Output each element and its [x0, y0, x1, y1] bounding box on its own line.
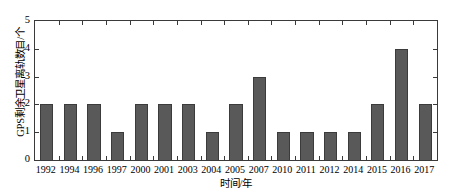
- bar: [371, 104, 384, 160]
- y-tick-label: 3: [16, 71, 30, 81]
- x-tick-mark: [271, 156, 272, 160]
- bar: [206, 132, 219, 160]
- plot-inner: [35, 21, 437, 160]
- x-tick-mark: [248, 21, 249, 25]
- x-tick-label: 2014: [343, 163, 363, 176]
- y-tick-label: 5: [16, 15, 30, 25]
- x-tick-mark: [295, 156, 296, 160]
- x-tick-mark: [106, 156, 107, 160]
- x-tick-mark: [342, 21, 343, 25]
- x-tick-label: 1994: [59, 163, 79, 176]
- x-tick-label: 2015: [367, 163, 387, 176]
- x-tick-mark: [224, 156, 225, 160]
- y-tick-label: 0: [16, 154, 30, 164]
- x-tick-mark: [130, 21, 131, 25]
- x-tick-label: 2012: [320, 163, 340, 176]
- bar: [419, 104, 432, 160]
- x-tick-mark: [201, 156, 202, 160]
- bar: [135, 104, 148, 160]
- x-tick-label: 2004: [201, 163, 221, 176]
- x-tick-label: 2003: [178, 163, 198, 176]
- bar: [229, 104, 242, 160]
- x-tick-mark: [366, 21, 367, 25]
- y-tick-label: 1: [16, 126, 30, 136]
- x-tick-mark: [82, 21, 83, 25]
- y-tick-label: 4: [16, 43, 30, 53]
- y-tick-mark: [433, 132, 437, 133]
- x-tick-mark: [106, 21, 107, 25]
- x-tick-mark: [413, 156, 414, 160]
- x-tick-mark: [248, 156, 249, 160]
- y-axis-tick-labels: 012345: [12, 0, 30, 196]
- bar: [324, 132, 337, 160]
- x-axis-title: 时间/年: [34, 177, 438, 191]
- x-tick-label: 2000: [130, 163, 150, 176]
- x-tick-mark: [177, 156, 178, 160]
- x-tick-label: 1996: [83, 163, 103, 176]
- x-tick-mark: [271, 21, 272, 25]
- x-tick-label: 2017: [414, 163, 434, 176]
- x-tick-mark: [224, 21, 225, 25]
- bar: [158, 104, 171, 160]
- x-tick-mark: [319, 21, 320, 25]
- y-tick-label: 2: [16, 98, 30, 108]
- x-tick-mark: [390, 156, 391, 160]
- y-tick-mark: [35, 49, 39, 50]
- x-tick-mark: [342, 156, 343, 160]
- x-tick-mark: [295, 21, 296, 25]
- y-tick-mark: [35, 132, 39, 133]
- x-tick-label: 2010: [272, 163, 292, 176]
- x-tick-label: 2007: [249, 163, 269, 176]
- x-tick-mark: [82, 156, 83, 160]
- x-tick-label: 2016: [391, 163, 411, 176]
- bar: [111, 132, 124, 160]
- bar: [277, 132, 290, 160]
- y-tick-mark: [433, 77, 437, 78]
- bar: [40, 104, 53, 160]
- x-tick-mark: [390, 21, 391, 25]
- y-tick-mark: [433, 104, 437, 105]
- x-tick-mark: [153, 21, 154, 25]
- bar: [182, 104, 195, 160]
- y-tick-mark: [35, 77, 39, 78]
- x-tick-label: 1992: [36, 163, 56, 176]
- x-tick-label: 1997: [107, 163, 127, 176]
- bar: [87, 104, 100, 160]
- bar: [348, 132, 361, 160]
- x-tick-mark: [59, 156, 60, 160]
- x-tick-mark: [319, 156, 320, 160]
- x-tick-mark: [59, 21, 60, 25]
- y-tick-mark: [433, 49, 437, 50]
- x-tick-mark: [153, 156, 154, 160]
- x-tick-label: 2001: [154, 163, 174, 176]
- bar: [64, 104, 77, 160]
- x-tick-mark: [366, 156, 367, 160]
- x-axis-tick-labels: 1992199419961997200020012003200420052007…: [34, 163, 438, 177]
- plot-area: [34, 20, 438, 161]
- x-tick-label: 2005: [225, 163, 245, 176]
- bar: [253, 77, 266, 160]
- x-tick-mark: [130, 156, 131, 160]
- x-tick-mark: [177, 21, 178, 25]
- x-tick-mark: [201, 21, 202, 25]
- bar: [300, 132, 313, 160]
- y-tick-mark: [35, 104, 39, 105]
- chart-figure: GPS剩余卫星离轨数目/个 012345 1992199419961997200…: [0, 0, 450, 196]
- x-tick-mark: [413, 21, 414, 25]
- bar: [395, 49, 408, 160]
- x-tick-label: 2011: [296, 163, 316, 176]
